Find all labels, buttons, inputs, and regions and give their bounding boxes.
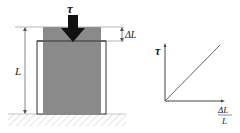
length-label: L: [14, 65, 21, 77]
length-dimension: [23, 27, 27, 114]
compression-diagram: τ L ΔL τ ΔL L: [0, 0, 240, 133]
graph-x-label-num: ΔL: [217, 105, 228, 115]
ground-hatch: [8, 114, 126, 126]
delta-label: ΔL: [124, 29, 137, 40]
delta-dimension: [120, 27, 124, 42]
linear-curve: [165, 45, 220, 101]
stress-strain-graph: [164, 43, 226, 103]
load-label: τ: [67, 1, 74, 16]
graph-y-label: τ: [155, 44, 161, 58]
graph-x-label-den: L: [221, 116, 227, 126]
